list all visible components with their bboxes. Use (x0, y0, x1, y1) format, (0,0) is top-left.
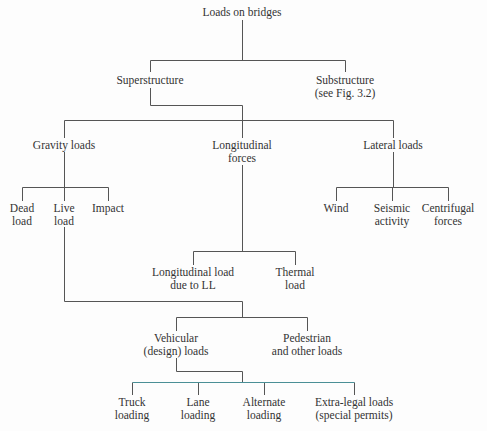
node-label: (design) loads (144, 345, 209, 358)
node-longitudinal-forces: Longitudinal forces (212, 139, 271, 165)
node-label: activity (374, 215, 410, 228)
node-label: Thermal (276, 266, 315, 279)
node-lane-loading: Lane loading (181, 396, 216, 422)
node-alternate-loading: Alternate loading (243, 396, 286, 422)
node-label: (special permits) (315, 409, 393, 422)
node-impact: Impact (92, 202, 124, 215)
node-label: Loads on bridges (202, 6, 281, 19)
node-label: Substructure (315, 74, 376, 87)
node-longitudinal-load-due-to-ll: Longitudinal load due to LL (152, 266, 234, 292)
node-seismic-activity: Seismic activity (374, 202, 410, 228)
node-loads-on-bridges: Loads on bridges (202, 6, 281, 19)
node-label: Extra-legal loads (315, 396, 393, 409)
node-label: load (10, 215, 34, 228)
node-label: Pedestrian (272, 332, 342, 345)
node-label: Longitudinal (212, 139, 271, 152)
node-label: Lateral loads (363, 139, 423, 152)
node-label: Vehicular (144, 332, 209, 345)
node-label: Superstructure (116, 74, 183, 87)
node-dead-load: Dead load (10, 202, 34, 228)
node-label: due to LL (152, 279, 234, 292)
node-label: Truck (115, 396, 150, 409)
load-hierarchy-diagram: Loads on bridges Superstructure Substruc… (0, 0, 487, 431)
node-label: loading (181, 409, 216, 422)
node-label: (see Fig. 3.2) (315, 87, 376, 100)
node-vehicular-design-loads: Vehicular (design) loads (144, 332, 209, 358)
node-truck-loading: Truck loading (115, 396, 150, 422)
node-label: loading (115, 409, 150, 422)
node-label: Impact (92, 202, 124, 215)
node-centrifugal-forces: Centrifugal forces (422, 202, 474, 228)
node-label: Dead (10, 202, 34, 215)
node-label: Seismic (374, 202, 410, 215)
node-label: Live (53, 202, 74, 215)
node-wind: Wind (323, 202, 348, 215)
node-superstructure: Superstructure (116, 74, 183, 87)
node-label: and other loads (272, 345, 342, 358)
node-label: forces (212, 152, 271, 165)
node-extra-legal-loads: Extra-legal loads (special permits) (315, 396, 393, 422)
node-label: Centrifugal (422, 202, 474, 215)
node-label: Wind (323, 202, 348, 215)
node-label: Longitudinal load (152, 266, 234, 279)
node-lateral-loads: Lateral loads (363, 139, 423, 152)
node-label: load (53, 215, 74, 228)
node-substructure: Substructure (see Fig. 3.2) (315, 74, 376, 100)
node-pedestrian-and-other-loads: Pedestrian and other loads (272, 332, 342, 358)
node-gravity-loads: Gravity loads (33, 139, 95, 152)
node-label: forces (422, 215, 474, 228)
node-live-load: Live load (53, 202, 74, 228)
node-label: Alternate (243, 396, 286, 409)
node-thermal-load: Thermal load (276, 266, 315, 292)
node-label: Lane (181, 396, 216, 409)
node-label: load (276, 279, 315, 292)
node-label: Gravity loads (33, 139, 95, 152)
node-label: loading (243, 409, 286, 422)
